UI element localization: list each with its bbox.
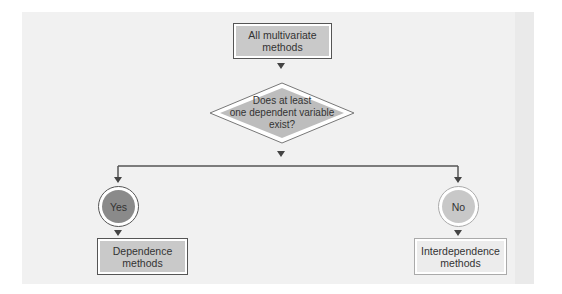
dependence-line1: Dependence xyxy=(113,245,173,257)
yes-label: Yes xyxy=(110,201,127,213)
dependence-line2: methods xyxy=(122,257,162,269)
interdependence-methods-node: Interdependence methods xyxy=(414,238,507,275)
arrow-down-icon xyxy=(454,230,462,236)
interdependence-line1: Interdependence xyxy=(421,245,500,257)
no-node: No xyxy=(438,186,479,227)
yes-node: Yes xyxy=(98,186,139,227)
interdependence-line2: methods xyxy=(440,257,480,269)
decision-line3: exist? xyxy=(269,119,295,131)
decision-label: Does at least one dependent variable exi… xyxy=(222,94,342,132)
decision-line2: one dependent variable xyxy=(230,107,335,119)
decision-line1: Does at least xyxy=(253,95,311,107)
arrow-down-icon xyxy=(114,230,122,236)
arrow-down-icon xyxy=(114,177,122,183)
no-label: No xyxy=(452,201,465,213)
dependence-methods-node: Dependence methods xyxy=(97,238,188,275)
arrow-down-icon xyxy=(277,151,285,157)
arrow-down-icon xyxy=(454,177,462,183)
